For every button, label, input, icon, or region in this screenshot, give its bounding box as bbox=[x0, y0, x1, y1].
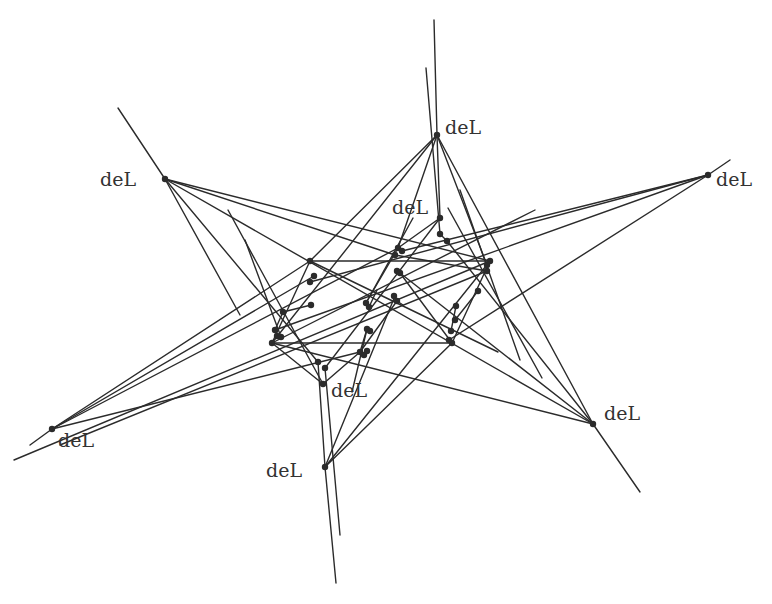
line-segment bbox=[60, 271, 487, 445]
vertex-dot bbox=[590, 421, 596, 427]
vertex-dot bbox=[452, 317, 458, 323]
vertex-dot bbox=[278, 334, 284, 340]
line-segment bbox=[245, 240, 281, 337]
point-label: deL bbox=[58, 429, 94, 451]
vertex-dot bbox=[367, 328, 373, 334]
vertex-dot bbox=[484, 268, 490, 274]
point-label: deL bbox=[392, 196, 428, 218]
line-segment bbox=[30, 429, 52, 445]
line-segment bbox=[165, 179, 395, 255]
vertex-dot bbox=[444, 238, 450, 244]
line-segment bbox=[460, 190, 520, 360]
line-segment bbox=[448, 208, 542, 378]
point-labels: deLdeLdeLdeLdeLdeLdeLdeL bbox=[58, 116, 752, 481]
vertex-dot bbox=[366, 304, 372, 310]
vertex-dot bbox=[315, 359, 321, 365]
vertex-dot bbox=[434, 132, 440, 138]
line-segment bbox=[275, 175, 708, 330]
line-segments bbox=[14, 20, 730, 583]
vertex-dot bbox=[446, 337, 452, 343]
line-segment bbox=[437, 135, 593, 424]
vertex-dot bbox=[162, 176, 168, 182]
vertex-dot bbox=[280, 309, 286, 315]
point-label: deL bbox=[445, 116, 481, 138]
vertex-dot bbox=[475, 288, 481, 294]
line-segment bbox=[434, 20, 437, 135]
line-segment bbox=[398, 135, 437, 248]
vertex-dot bbox=[308, 302, 314, 308]
vertex-dot bbox=[311, 273, 317, 279]
vertex-dot bbox=[307, 258, 313, 264]
line-segment bbox=[325, 261, 490, 467]
point-label: deL bbox=[716, 168, 752, 190]
point-label: deL bbox=[331, 379, 367, 401]
point-label: deL bbox=[266, 459, 302, 481]
line-segment bbox=[52, 276, 314, 429]
vertex-dot bbox=[269, 340, 275, 346]
vertex-dot bbox=[484, 262, 490, 268]
line-segment bbox=[449, 175, 708, 340]
line-segment bbox=[52, 352, 360, 429]
line-segment bbox=[272, 135, 437, 343]
vertex-dot bbox=[392, 252, 398, 258]
line-segment bbox=[165, 179, 593, 424]
vertex-dot bbox=[437, 231, 443, 237]
vertex-dot bbox=[437, 215, 443, 221]
vertex-dot bbox=[399, 248, 405, 254]
vertex-dot bbox=[320, 381, 326, 387]
line-segment bbox=[52, 248, 398, 429]
point-label: deL bbox=[604, 402, 640, 424]
line-segment bbox=[593, 424, 640, 492]
vertex-dot bbox=[364, 348, 370, 354]
point-label: deL bbox=[100, 168, 136, 190]
vertex-dot bbox=[448, 328, 454, 334]
vertex-dot bbox=[322, 365, 328, 371]
vertex-dot bbox=[453, 303, 459, 309]
line-segment bbox=[310, 261, 498, 352]
line-segment bbox=[325, 467, 336, 583]
diagram-canvas: deLdeLdeLdeLdeLdeLdeLdeL bbox=[0, 0, 772, 604]
geometric-figure: deLdeLdeLdeLdeLdeLdeLdeL bbox=[0, 0, 772, 604]
vertex-dot bbox=[705, 172, 711, 178]
vertex-dot bbox=[394, 298, 400, 304]
vertex-dot bbox=[49, 426, 55, 432]
vertex-dot bbox=[322, 464, 328, 470]
vertex-dot bbox=[307, 279, 313, 285]
line-segment bbox=[310, 175, 708, 282]
vertex-dot bbox=[397, 270, 403, 276]
vertex-dot bbox=[272, 327, 278, 333]
